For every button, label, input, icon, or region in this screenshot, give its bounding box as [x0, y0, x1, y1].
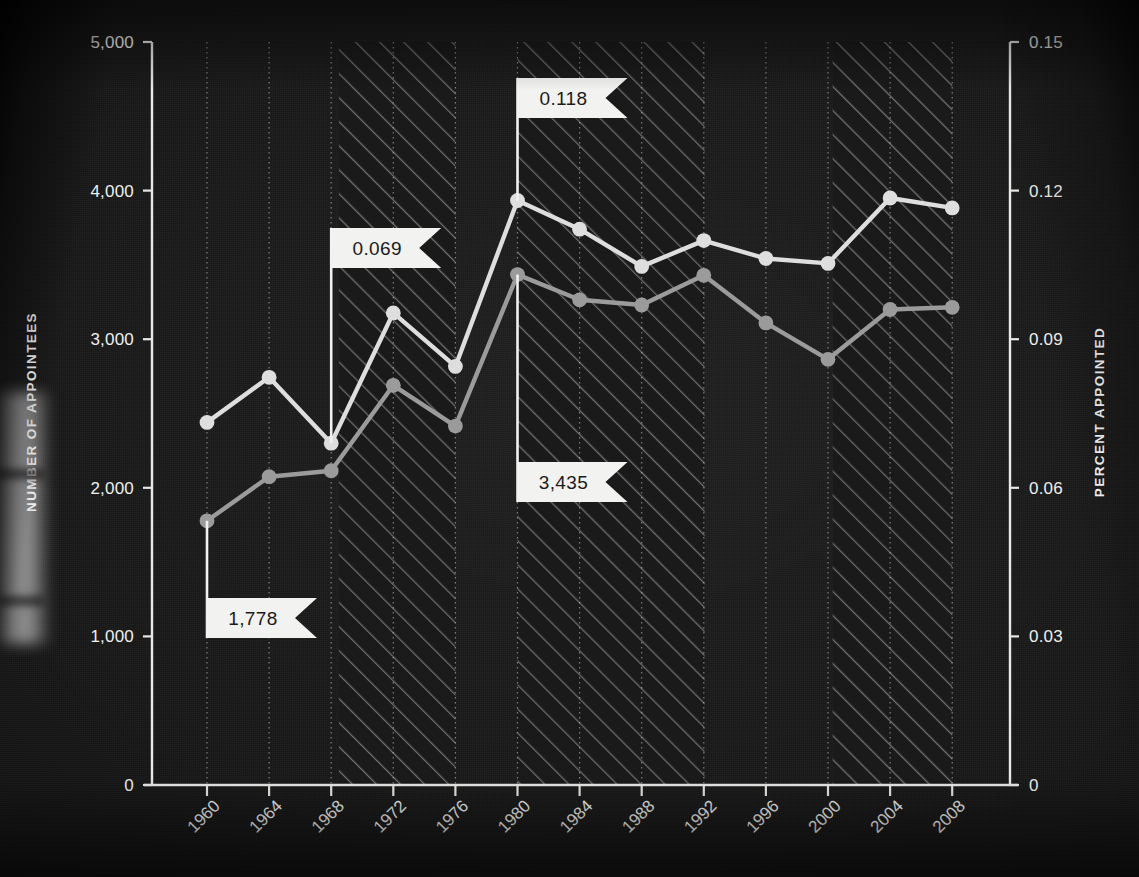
x-tick-label: 2000	[805, 796, 845, 836]
shaded-term-bands	[339, 42, 952, 785]
left-tick-label: 5,000	[90, 33, 134, 52]
left-tick-label: 0	[124, 776, 134, 795]
x-axis-ticks: 1960196419681972197619801984198819921996…	[184, 785, 969, 837]
data-point[interactable]	[883, 302, 898, 317]
data-point[interactable]	[386, 306, 401, 321]
right-tick-label: 0.12	[1029, 182, 1063, 201]
shaded-band	[833, 42, 953, 785]
left-tick-label: 2,000	[90, 479, 134, 498]
x-tick-label: 2008	[929, 796, 969, 836]
x-tick-label: 1968	[308, 796, 348, 836]
callout-appointees-1960[interactable]: 1,778	[207, 521, 317, 638]
x-tick-label: 1964	[246, 796, 286, 836]
data-point[interactable]	[262, 469, 277, 484]
data-point[interactable]	[945, 300, 960, 315]
x-tick-label: 1988	[618, 796, 658, 836]
left-axis-ticks: 01,0002,0003,0004,0005,000	[90, 33, 152, 795]
data-point[interactable]	[759, 316, 774, 331]
left-axis-title: NUMBER OF APPOINTEES	[24, 312, 39, 512]
data-point[interactable]	[262, 370, 277, 385]
data-point[interactable]	[448, 419, 463, 434]
x-tick-label: 1980	[494, 796, 534, 836]
callout-label: 1,778	[228, 608, 278, 629]
right-tick-label: 0.06	[1029, 479, 1063, 498]
right-tick-label: 0.09	[1029, 330, 1063, 349]
x-tick-label: 1984	[556, 796, 596, 836]
x-tick-label: 2004	[867, 796, 907, 836]
data-point[interactable]	[324, 463, 339, 478]
chart-canvas: 01,0002,0003,0004,0005,000 00.030.060.09…	[0, 0, 1139, 877]
right-tick-label: 0.15	[1029, 33, 1063, 52]
x-tick-label: 1996	[743, 796, 783, 836]
right-axis-title: PERCENT APPOINTED	[1092, 327, 1107, 497]
callout-label: 0.069	[352, 238, 402, 259]
callout-label: 0.118	[539, 88, 587, 109]
data-point[interactable]	[634, 298, 649, 313]
x-tick-label: 1960	[184, 796, 224, 836]
left-tick-label: 4,000	[90, 182, 134, 201]
data-point[interactable]	[572, 292, 587, 307]
appointees-line-chart: 01,0002,0003,0004,0005,000 00.030.060.09…	[0, 0, 1139, 877]
right-tick-label: 0	[1029, 776, 1039, 795]
x-tick-label: 1992	[680, 796, 720, 836]
right-tick-label: 0.03	[1029, 627, 1063, 646]
data-point[interactable]	[386, 378, 401, 393]
data-point[interactable]	[696, 233, 711, 248]
left-tick-label: 3,000	[90, 330, 134, 349]
data-point[interactable]	[821, 352, 836, 367]
callout-label: 3,435	[539, 472, 589, 493]
left-tick-label: 1,000	[90, 627, 134, 646]
x-tick-label: 1972	[370, 796, 410, 836]
data-point[interactable]	[883, 191, 898, 206]
data-point[interactable]	[572, 222, 587, 237]
data-point[interactable]	[200, 415, 215, 430]
right-axis-ticks: 00.030.060.090.120.15	[1010, 33, 1063, 795]
data-point[interactable]	[821, 256, 836, 271]
data-point[interactable]	[448, 359, 463, 374]
data-point[interactable]	[634, 259, 649, 274]
data-point[interactable]	[696, 268, 711, 283]
shaded-band	[518, 42, 705, 785]
data-point[interactable]	[945, 201, 960, 216]
data-point[interactable]	[759, 251, 774, 266]
x-tick-label: 1976	[432, 796, 472, 836]
